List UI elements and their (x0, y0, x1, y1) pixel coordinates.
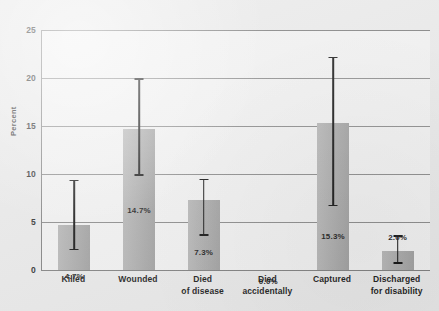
error-bar-line (138, 78, 140, 174)
error-bar-line (74, 180, 76, 249)
y-axis-title: Percent (9, 106, 18, 136)
error-bar-cap (329, 205, 338, 207)
x-axis-labels: KilledWoundedDied of diseaseDied acciden… (41, 274, 429, 308)
value-label: 2.0% (388, 233, 407, 242)
x-axis-label: Killed (41, 274, 106, 286)
error-bar-cap (199, 179, 208, 181)
gridline (42, 222, 430, 223)
x-axis-label: Died accidentally (235, 274, 300, 297)
y-tick-label: 10 (6, 169, 36, 179)
error-bar-line (203, 179, 205, 235)
value-label: 15.3% (321, 232, 345, 241)
error-bar-cap (135, 78, 144, 80)
y-axis-ticks: 0510152025 (0, 30, 36, 270)
value-label: 7.3% (194, 248, 213, 257)
value-label: 14.7% (127, 206, 151, 215)
error-bar-cap (135, 174, 144, 176)
error-bar-cap (329, 57, 338, 59)
chart-figure: 0510152025 Percent 4.7%14.7%7.3%0.0%15.3… (0, 0, 439, 311)
gridline (42, 30, 430, 31)
y-tick-label: 5 (6, 217, 36, 227)
x-axis-label: Captured (300, 274, 365, 286)
y-tick-label: 25 (6, 25, 36, 35)
x-axis-label: Died of disease (170, 274, 235, 297)
error-bar-cap (70, 180, 79, 182)
y-tick-label: 20 (6, 73, 36, 83)
y-tick-label: 0 (6, 265, 36, 275)
x-axis-label: Discharged for disability (364, 274, 429, 297)
plot-area: 4.7%14.7%7.3%0.0%15.3%2.0% (41, 30, 430, 271)
error-bar-cap (393, 262, 402, 264)
error-bar-cap (70, 249, 79, 251)
gridline (42, 174, 430, 175)
gridline (42, 78, 430, 79)
error-bar-cap (199, 234, 208, 236)
x-axis-label: Wounded (106, 274, 171, 286)
gridline (42, 126, 430, 127)
error-bar-line (332, 57, 334, 205)
